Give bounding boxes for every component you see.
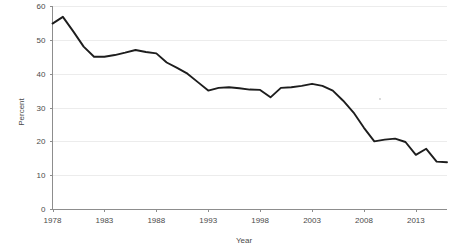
line-chart-figure: 0102030405060 19781983198819931998200320… xyxy=(0,0,456,251)
x-tick-label: 1998 xyxy=(251,216,269,225)
x-tick-label: 1988 xyxy=(147,216,165,225)
y-tick-label: 40 xyxy=(37,70,46,79)
x-tick-label: 1978 xyxy=(44,216,62,225)
y-tick-label: 60 xyxy=(37,2,46,11)
y-tick-label: 0 xyxy=(41,205,46,214)
x-tick-label: 1983 xyxy=(96,216,114,225)
chart-canvas: 0102030405060 19781983198819931998200320… xyxy=(0,0,456,251)
y-tick-label: 30 xyxy=(37,104,46,113)
image-speck xyxy=(379,98,381,100)
y-axis-tick-labels: 0102030405060 xyxy=(37,2,46,214)
x-tick-label: 1993 xyxy=(199,216,217,225)
y-axis-title: Percent xyxy=(17,97,26,125)
data-series-line xyxy=(53,17,448,162)
gridline-group xyxy=(53,7,448,176)
x-tick-label: 2013 xyxy=(407,216,425,225)
y-tick-label: 50 xyxy=(37,36,46,45)
x-axis-title: Year xyxy=(236,236,253,245)
y-tick-label: 20 xyxy=(37,137,46,146)
x-tick-label: 2008 xyxy=(355,216,373,225)
y-tick-label: 10 xyxy=(37,171,46,180)
x-tick-label: 2003 xyxy=(303,216,321,225)
x-axis-tick-labels: 19781983198819931998200320082013 xyxy=(44,216,426,225)
